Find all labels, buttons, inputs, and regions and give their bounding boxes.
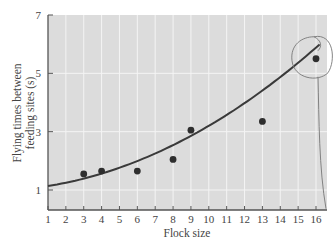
x-tick-label: 3: [81, 213, 87, 225]
y-axis-label-line2: feeding sites (s): [24, 76, 37, 149]
data-point: [170, 156, 177, 163]
plot-background: [48, 15, 327, 210]
x-axis-label: Flock size: [164, 227, 211, 239]
x-tick-label: 7: [152, 213, 158, 225]
data-point: [98, 168, 105, 175]
x-tick-label: 13: [257, 213, 269, 225]
x-tick-label: 1: [45, 213, 51, 225]
x-tick-label: 9: [188, 213, 194, 225]
y-tick-label: 5: [36, 67, 42, 79]
x-tick-label: 16: [311, 213, 323, 225]
x-tick-label: 6: [135, 213, 141, 225]
x-tick-labels: 12345678910111213141516: [45, 213, 322, 225]
data-point: [134, 168, 141, 175]
x-tick-label: 11: [221, 213, 232, 225]
x-tick-label: 15: [293, 213, 305, 225]
x-tick-label: 12: [239, 213, 250, 225]
data-point: [188, 127, 195, 134]
data-point: [80, 171, 87, 178]
x-tick-label: 2: [63, 213, 69, 225]
x-tick-label: 10: [203, 213, 215, 225]
y-tick-label: 7: [36, 9, 42, 21]
y-axis-label-line1: Flying times between: [11, 63, 24, 162]
x-tick-label: 8: [170, 213, 176, 225]
y-tick-label: 3: [36, 126, 42, 138]
chart: 12345678910111213141516 1357 Flock size …: [0, 0, 333, 246]
x-tick-label: 5: [117, 213, 123, 225]
x-tick-label: 14: [275, 213, 287, 225]
data-point: [259, 118, 266, 125]
y-tick-label: 1: [36, 184, 42, 196]
x-tick-label: 4: [99, 213, 105, 225]
y-tick-labels: 1357: [36, 9, 42, 196]
data-point: [313, 55, 320, 62]
